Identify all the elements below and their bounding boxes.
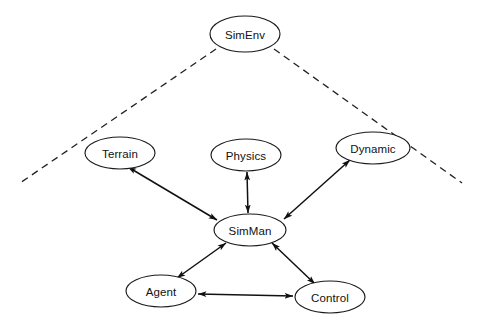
diagram-canvas-container: SimEnv Terrain Physics Dynamic SimMan Ag [0,0,483,332]
edge-dynamic-simman [284,160,350,219]
edge-simman-control [272,243,315,284]
node-terrain-label: Terrain [102,148,138,160]
node-physics[interactable]: Physics [211,139,281,171]
edge-physics-simman [247,172,248,213]
node-agent[interactable]: Agent [126,275,196,307]
node-physics-label: Physics [226,150,266,162]
node-terrain[interactable]: Terrain [85,137,155,169]
edge-simman-agent [177,243,226,278]
node-dynamic-label: Dynamic [350,143,396,155]
nodes-group: SimEnv Terrain Physics Dynamic SimMan Ag [85,16,410,313]
node-simenv[interactable]: SimEnv [210,16,280,52]
edge-terrain-simman [128,167,217,220]
node-agent-label: Agent [146,286,177,298]
node-simman[interactable]: SimMan [214,214,286,246]
node-control-label: Control [311,292,349,304]
node-dynamic[interactable]: Dynamic [336,132,410,164]
node-control[interactable]: Control [295,281,365,313]
node-simman-label: SimMan [229,225,272,237]
system-architecture-diagram: SimEnv Terrain Physics Dynamic SimMan Ag [0,0,483,332]
edge-agent-control [198,294,293,296]
node-simenv-label: SimEnv [225,29,265,41]
